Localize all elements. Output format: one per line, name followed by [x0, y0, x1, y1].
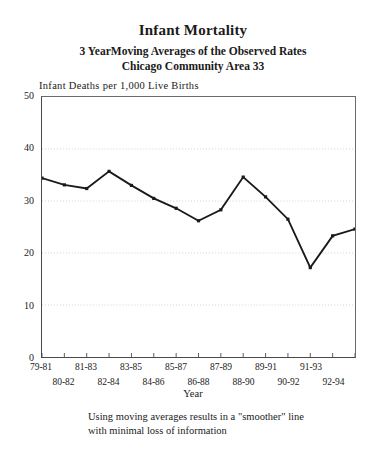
data-point-marker [152, 197, 155, 200]
chart-subtitle-1: 3 YearMoving Averages of the Observed Ra… [0, 45, 386, 57]
y-tick-label: 20 [0, 248, 34, 258]
data-point-marker [309, 266, 312, 269]
x-tick-label: 89-91 [246, 362, 286, 372]
plot-area [41, 96, 356, 358]
data-point-marker [130, 184, 133, 187]
x-tick-label: 90-92 [269, 377, 309, 387]
x-tick-label: 83-85 [111, 362, 151, 372]
x-tick-label: 82-84 [89, 377, 129, 387]
data-point-marker [353, 227, 355, 230]
x-tick-label: 87-89 [201, 362, 241, 372]
data-point-marker [219, 208, 222, 211]
chart-title: Infant Mortality [0, 22, 386, 39]
y-tick-label: 40 [0, 143, 34, 153]
x-axis-title: Year [0, 388, 386, 399]
figure-caption: Using moving averages results in a "smoo… [88, 410, 304, 438]
data-point-marker [331, 234, 334, 237]
x-tick-label: 84-86 [134, 377, 174, 387]
data-point-marker [286, 218, 289, 221]
data-point-marker [63, 183, 66, 186]
data-point-marker [197, 219, 200, 222]
data-point-marker [42, 177, 44, 180]
data-point-marker [264, 195, 267, 198]
caption-line-1: Using moving averages results in a "smoo… [88, 410, 304, 424]
y-tick-label: 50 [0, 91, 34, 101]
data-point-marker [85, 187, 88, 190]
x-tick-label: 86-88 [179, 377, 219, 387]
figure-root: Infant Mortality 3 YearMoving Averages o… [0, 0, 386, 457]
chart-subtitle-2: Chicago Community Area 33 [0, 60, 386, 72]
x-tick-label: 85-87 [156, 362, 196, 372]
x-tick-label: 92-94 [314, 377, 354, 387]
y-axis-title: Infant Deaths per 1,000 Live Births [39, 80, 199, 91]
data-point-marker [175, 207, 178, 210]
y-tick-label: 10 [0, 301, 34, 311]
x-tick-label: 88-90 [224, 377, 264, 387]
y-tick-label: 30 [0, 196, 34, 206]
x-tick-label: 81-83 [66, 362, 106, 372]
data-point-marker [107, 170, 110, 173]
x-tick-label: 80-82 [44, 377, 84, 387]
caption-line-2: with minimal loss of information [88, 424, 304, 438]
x-tick-label: 79-81 [21, 362, 61, 372]
data-point-marker [242, 175, 245, 178]
series-line-chart [42, 97, 355, 357]
x-tick-label: 91-93 [291, 362, 331, 372]
